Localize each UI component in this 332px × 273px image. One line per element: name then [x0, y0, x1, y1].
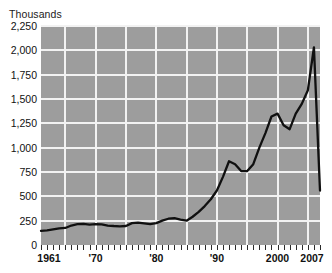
x-axis-tick-mark [77, 245, 78, 250]
y-axis-tick-label: 1,500 [1, 93, 37, 105]
y-axis-unit-label: Thousands [9, 8, 62, 20]
x-axis-tick-mark [174, 245, 175, 250]
y-axis-tick-label: 750 [1, 166, 37, 178]
x-axis-tick-mark [241, 245, 242, 250]
x-axis-tick-mark [181, 245, 182, 250]
x-axis-tick-mark [83, 245, 84, 250]
x-axis-tick-mark [205, 245, 206, 250]
x-axis-tick-mark [120, 245, 121, 250]
x-axis-tick-mark [162, 245, 163, 250]
x-axis-tick-mark [90, 245, 91, 250]
x-axis-tick-mark [223, 245, 224, 250]
x-axis-tick-mark [229, 245, 230, 250]
x-axis-tick-mark [53, 245, 54, 250]
x-axis-tick-mark [290, 245, 291, 250]
x-axis-tick-mark [211, 245, 212, 250]
x-axis-tick-label: 2007 [300, 252, 323, 264]
y-axis-tick-label: 250 [1, 215, 37, 227]
x-axis-tick-mark [96, 245, 97, 250]
x-axis-tick-mark [65, 245, 66, 250]
y-axis-tick-label: 1,250 [1, 117, 37, 129]
plot-area [41, 26, 320, 245]
data-series-line [41, 47, 320, 230]
x-axis-tick-mark [47, 245, 48, 250]
y-axis-tick-labels: 02505007501,0001,2501,5001,7502,0002,250 [0, 26, 37, 245]
x-axis-tick-label: '70 [88, 252, 102, 264]
data-line-svg [41, 26, 320, 245]
x-axis-tick-mark [314, 245, 315, 250]
chart-container: Thousands 02505007501,0001,2501,5001,750… [0, 0, 332, 273]
x-axis-tick-label: 2000 [266, 252, 289, 264]
x-axis-tick-mark [217, 245, 218, 250]
x-axis-tick-mark [132, 245, 133, 250]
x-axis-tick-mark [114, 245, 115, 250]
x-axis-tick-mark [296, 245, 297, 250]
x-axis-tick-mark [284, 245, 285, 250]
x-axis-tick-labels: 1961'70'80'9020002007 [0, 252, 332, 272]
x-axis-tick-mark [302, 245, 303, 250]
y-axis-tick-label: 500 [1, 190, 37, 202]
x-axis-tick-mark [271, 245, 272, 250]
y-axis-tick-label: 1,750 [1, 69, 37, 81]
x-axis-tick-mark [320, 245, 321, 250]
x-axis-tick-mark [71, 245, 72, 250]
x-axis-tick-mark [308, 245, 309, 250]
x-axis-tick-mark [126, 245, 127, 250]
x-axis-tick-mark [265, 245, 266, 250]
x-axis-tick-mark [278, 245, 279, 250]
x-axis-tick-mark [138, 245, 139, 250]
x-axis-tick-mark [150, 245, 151, 250]
x-axis-tick-mark [253, 245, 254, 250]
x-axis-tick-label: 1961 [37, 252, 60, 264]
x-axis-tick-mark [259, 245, 260, 250]
x-axis-tick-mark [59, 245, 60, 250]
y-axis-tick-label: 0 [1, 239, 37, 251]
x-axis-tick-mark [168, 245, 169, 250]
y-axis-tick-label: 1,000 [1, 142, 37, 154]
x-axis-tick-label: '90 [210, 252, 224, 264]
x-axis-tick-label: '80 [149, 252, 163, 264]
x-axis-tick-mark [102, 245, 103, 250]
x-axis-tick-mark [247, 245, 248, 250]
y-axis-tick-label: 2,250 [1, 20, 37, 32]
x-axis-tick-mark [199, 245, 200, 250]
x-axis-tick-mark [108, 245, 109, 250]
x-axis-tick-mark [156, 245, 157, 250]
x-axis-tick-mark [144, 245, 145, 250]
y-axis-tick-label: 2,000 [1, 44, 37, 56]
x-axis-tick-mark [193, 245, 194, 250]
x-axis-tick-mark [187, 245, 188, 250]
x-axis-tick-mark [41, 245, 42, 250]
x-axis-tick-mark [235, 245, 236, 250]
